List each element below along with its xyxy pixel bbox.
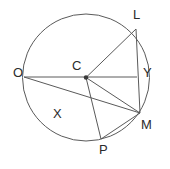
point-label-L: L bbox=[133, 8, 140, 21]
point-label-O: O bbox=[13, 66, 23, 79]
point-label-P: P bbox=[99, 143, 108, 156]
segment-C-L bbox=[86, 29, 136, 78]
geometry-figure: L Y M P X O C bbox=[0, 0, 170, 169]
point-label-X: X bbox=[53, 107, 62, 120]
segment-C-P bbox=[86, 78, 101, 140]
segment-C-M bbox=[86, 78, 140, 114]
point-label-C: C bbox=[72, 59, 81, 72]
geometry-canvas bbox=[0, 0, 170, 169]
point-label-Y: Y bbox=[143, 66, 152, 79]
center-point-C bbox=[84, 75, 88, 79]
segment-P-M bbox=[101, 113, 140, 139]
segment-O-M bbox=[24, 77, 140, 113]
point-label-M: M bbox=[141, 118, 152, 131]
